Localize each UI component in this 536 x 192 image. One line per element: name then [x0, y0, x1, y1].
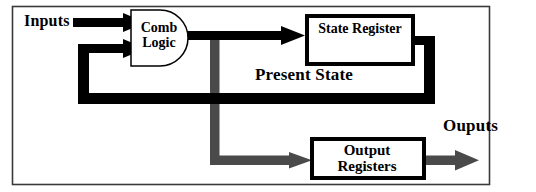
diagram-canvas: Inputs Present State Ouputs Comb Logic S… — [0, 0, 536, 192]
diagram-graphics — [0, 0, 536, 192]
output-registers-label-line2: Registers — [313, 159, 421, 175]
inputs-label: Inputs — [24, 13, 70, 30]
state-register-label-line1: State Register — [318, 21, 402, 36]
output-registers-label: Output Registers — [313, 143, 421, 175]
output-registers-label-line1: Output — [344, 142, 391, 158]
comb-logic-label-line2: Logic — [136, 36, 182, 51]
present-state-label: Present State — [255, 66, 353, 84]
state-register-label: State Register — [310, 22, 410, 37]
comb-logic-label: Comb Logic — [136, 21, 182, 50]
comb-logic-label-line1: Comb — [141, 20, 178, 35]
outputs-label: Ouputs — [443, 117, 498, 135]
